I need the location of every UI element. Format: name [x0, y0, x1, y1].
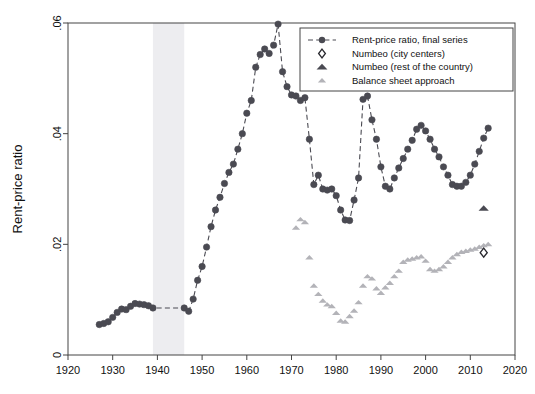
data-point-circle [445, 172, 451, 178]
data-point-circle [467, 172, 473, 178]
data-point-triangle [381, 285, 389, 289]
data-point-triangle [444, 260, 452, 264]
data-point-circle [212, 207, 218, 213]
data-point-circle [346, 217, 352, 223]
x-tick-label: 1990 [369, 364, 393, 376]
data-point-circle [208, 223, 214, 229]
legend-label: Numbeo (rest of the country) [352, 61, 473, 72]
data-point-circle [221, 180, 227, 186]
data-point-circle [463, 179, 469, 185]
data-point-circle [400, 155, 406, 161]
series-3 [479, 205, 489, 210]
x-tick-label: 2020 [503, 364, 527, 376]
data-point-triangle [484, 242, 492, 246]
data-point-circle [190, 296, 196, 302]
y-tick-label: 0 [51, 352, 63, 358]
y-tick-label: .06 [51, 15, 63, 30]
data-point-circle [364, 93, 370, 99]
data-point-circle [199, 263, 205, 269]
data-point-circle [239, 130, 245, 136]
data-point-circle [472, 161, 478, 167]
x-tick-label: 1940 [145, 364, 169, 376]
data-point-circle [418, 122, 424, 128]
x-tick-label: 1950 [190, 364, 214, 376]
y-tick-label: .04 [51, 126, 63, 141]
data-point-circle [436, 154, 442, 160]
data-point-triangle [310, 283, 318, 287]
data-point-triangle [421, 258, 429, 262]
data-point-triangle [479, 205, 489, 210]
data-point-circle [284, 83, 290, 89]
data-point-circle [355, 175, 361, 181]
data-point-circle [481, 135, 487, 141]
data-point-circle [333, 192, 339, 198]
legend-label: Balance sheet approach [352, 75, 454, 86]
data-point-circle [270, 42, 276, 48]
data-point-circle [302, 95, 308, 101]
data-point-triangle [314, 292, 322, 296]
data-point-triangle [319, 298, 327, 302]
data-point-triangle [305, 255, 313, 259]
data-point-circle [150, 305, 156, 311]
data-point-triangle [354, 300, 362, 304]
data-point-circle [185, 308, 191, 314]
y-axis-label: Rent-price ratio [10, 145, 25, 234]
data-point-circle [427, 136, 433, 142]
data-point-circle [431, 146, 437, 152]
data-point-circle [315, 172, 321, 178]
data-point-circle [217, 194, 223, 200]
data-point-triangle [377, 291, 385, 295]
shaded-band-wwii [153, 23, 184, 355]
data-point-triangle [350, 308, 358, 312]
x-tick-label: 1980 [324, 364, 348, 376]
data-point-circle [203, 244, 209, 250]
data-point-circle [409, 137, 415, 143]
data-point-diamond [480, 248, 487, 257]
y-tick-label: .02 [51, 237, 63, 252]
data-point-triangle [395, 268, 403, 272]
x-tick-label: 1970 [279, 364, 303, 376]
data-point-circle [306, 136, 312, 142]
data-point-circle [257, 51, 263, 57]
data-point-triangle [332, 310, 340, 314]
data-point-circle [440, 164, 446, 170]
data-point-triangle [363, 274, 371, 278]
data-point-circle [369, 117, 375, 123]
x-tick-label: 2010 [458, 364, 482, 376]
x-tick-label: 2000 [413, 364, 437, 376]
data-point-circle [378, 164, 384, 170]
data-point-triangle [292, 225, 300, 229]
x-tick-label: 1920 [56, 364, 80, 376]
data-point-circle [485, 125, 491, 131]
data-point-circle [110, 314, 116, 320]
data-point-triangle [417, 254, 425, 258]
data-point-triangle [372, 286, 380, 290]
data-point-circle [244, 110, 250, 116]
x-tick-label: 1930 [100, 364, 124, 376]
chart-figure: 1920193019401950196019701980199020002010… [0, 0, 535, 394]
data-point-circle [387, 186, 393, 192]
data-point-triangle [359, 283, 367, 287]
data-point-circle [230, 161, 236, 167]
data-point-circle [311, 181, 317, 187]
data-point-circle [337, 207, 343, 213]
data-point-circle [226, 169, 232, 175]
data-point-circle [422, 128, 428, 134]
data-point-circle [194, 277, 200, 283]
data-point-circle [253, 64, 259, 70]
data-point-circle [248, 97, 254, 103]
data-point-triangle [390, 274, 398, 278]
rent-price-ratio-chart: 1920193019401950196019701980199020002010… [0, 0, 535, 394]
x-tick-label: 1960 [235, 364, 259, 376]
data-point-triangle [296, 217, 304, 221]
data-point-circle [266, 50, 272, 56]
series-1 [292, 217, 493, 324]
legend-marker-circle [319, 37, 325, 43]
data-point-circle [391, 175, 397, 181]
data-point-triangle [345, 314, 353, 318]
data-point-triangle [386, 281, 394, 285]
data-point-circle [275, 21, 281, 27]
data-point-circle [476, 148, 482, 154]
data-point-circle [396, 165, 402, 171]
data-point-circle [351, 197, 357, 203]
